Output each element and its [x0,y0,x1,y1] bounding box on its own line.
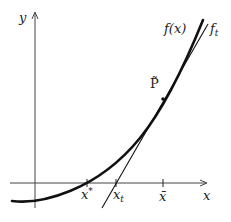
tangent-line [102,24,208,208]
root-label: x* [81,186,93,202]
tangent-point [161,97,165,101]
tangent-label: ft [209,21,219,38]
root-label-sup: * [88,186,93,196]
function-label: f(x) [163,21,186,36]
tangent-point-label: P̃ [150,76,159,91]
bar-x-label: x̄ [159,189,167,204]
tangent-label-sub: t [215,28,219,38]
tangent-root-label: xt [113,187,124,204]
x-axis-label: x [203,188,211,203]
function-curve [12,20,203,202]
y-axis-label: y [18,10,27,25]
newton-method-diagram: y x f(x) ft P̃ x* xt x̄ [0,0,231,222]
tangent-root-label-sub: t [120,194,124,204]
